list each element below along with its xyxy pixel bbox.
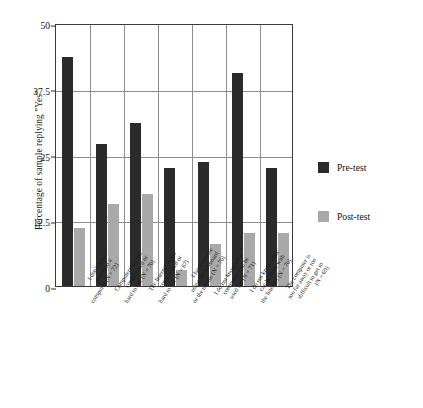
y-axis-tick-label: 25 (40, 151, 56, 162)
bar-pre-test (198, 162, 209, 286)
bar-pre-test (232, 73, 243, 286)
bar-pre-test (62, 57, 73, 286)
bar-group (226, 73, 260, 286)
legend-swatch-icon (318, 162, 329, 173)
bar-post-test (142, 194, 153, 286)
bar-pre-test (130, 123, 141, 286)
bar-post-test (74, 228, 85, 286)
bar-group (124, 123, 158, 286)
bar-pre-test (266, 168, 277, 286)
legend-item[interactable]: Post-test (318, 211, 418, 222)
legend-label: Post-test (337, 211, 370, 222)
bar-group (192, 162, 226, 286)
bar-post-test (108, 204, 119, 286)
y-axis-tick-label: 12.5 (33, 217, 56, 228)
legend-label: Pre-test (337, 162, 366, 173)
bar-post-test (244, 233, 255, 286)
x-axis-label-line: (N = 69) (299, 265, 331, 309)
bar-pre-test (96, 144, 107, 286)
legend-swatch-icon (318, 211, 329, 222)
bar-post-test (278, 233, 289, 286)
y-axis-tick-label: 0 (45, 283, 56, 294)
chart-legend: Pre-testPost-test (318, 162, 418, 260)
bar-group (56, 57, 90, 286)
y-axis-tick-label: 37.5 (33, 85, 56, 96)
legend-item[interactable]: Pre-test (318, 162, 418, 173)
bar-group (90, 144, 124, 286)
plot-area: 012.52537.550 (55, 24, 293, 287)
bar-post-test (176, 270, 187, 286)
bar-chart: Percentage of sample replying "Yes" 012.… (0, 0, 423, 408)
x-axis-label-line: difficult to get to (293, 261, 325, 305)
bar-pre-test (164, 168, 175, 286)
bar-post-test (210, 244, 221, 286)
bar-group (260, 168, 294, 286)
y-axis-tick-label: 50 (40, 20, 56, 31)
bar-group (158, 168, 192, 286)
